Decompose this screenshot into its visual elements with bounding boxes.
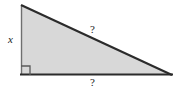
side-label-vertical-leg: x [8,34,13,45]
side-label-hypotenuse: ? [90,24,95,35]
geometry-figure: x ? ? [0,0,178,94]
side-label-base: ? [90,77,95,88]
right-triangle-graphic [0,0,178,94]
